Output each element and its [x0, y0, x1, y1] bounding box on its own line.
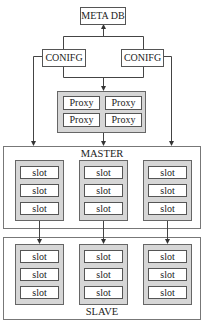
master-slot: slot [20, 166, 59, 179]
slave-slot: slot [148, 250, 187, 263]
slave-slot: slot [20, 250, 59, 263]
master-slot: slot [84, 184, 123, 197]
proxy-cell: Proxy [63, 113, 100, 127]
master-slot: slot [84, 166, 123, 179]
master-slot: slot [148, 166, 187, 179]
slave-slot: slot [148, 286, 187, 299]
master-slot: slot [148, 202, 187, 215]
master-slot: slot [148, 184, 187, 197]
slave-slot: slot [84, 268, 123, 281]
master-slot: slot [20, 202, 59, 215]
master-slot: slot [84, 202, 123, 215]
config-box-left: CONIFG [42, 49, 86, 67]
proxy-cell: Proxy [63, 96, 100, 110]
proxy-cell: Proxy [105, 96, 142, 110]
slave-slot: slot [84, 286, 123, 299]
proxy-cell: Proxy [105, 113, 142, 127]
slave-slot: slot [20, 286, 59, 299]
meta-db-box: META DB [80, 7, 126, 25]
config-box-right: CONIFG [121, 49, 164, 67]
slave-slot: slot [20, 268, 59, 281]
slave-slot: slot [148, 268, 187, 281]
master-slot: slot [20, 184, 59, 197]
slave-slot: slot [84, 250, 123, 263]
